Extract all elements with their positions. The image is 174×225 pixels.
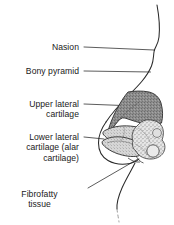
label-bony-pyramid-line-1: Bony pyramid xyxy=(0,66,79,76)
label-lower-lateral-cartilage-line-1: Lower lateral xyxy=(0,132,79,142)
label-nasion-line-1: Nasion xyxy=(0,42,79,52)
leader-line-nasion xyxy=(84,47,154,50)
label-upper-lateral-cartilage-line-2: cartilage xyxy=(0,109,79,119)
label-lower-lateral-cartilage-line-3: cartilage) xyxy=(0,153,79,163)
label-upper-lateral-cartilage: Upper lateral cartilage xyxy=(0,99,79,120)
label-upper-lateral-cartilage-line-1: Upper lateral xyxy=(0,99,79,109)
label-fibrofatty-tissue-line-1: Fibrofatty xyxy=(0,189,79,199)
chin-contour-faint xyxy=(117,209,119,222)
label-fibrofatty-tissue: Fibrofatty tissue xyxy=(0,189,79,210)
fibrofatty-lobule-2 xyxy=(153,129,162,138)
label-nasion: Nasion xyxy=(0,42,79,52)
fibrofatty-lobule-1 xyxy=(147,145,159,157)
label-fibrofatty-tissue-line-2: tissue xyxy=(0,199,79,209)
leader-line-bony-pyramid xyxy=(84,71,151,72)
label-lower-lateral-cartilage-line-2: cartilage (alar xyxy=(0,142,79,152)
leader-line-lower-lateral-cartilage xyxy=(84,137,104,139)
label-bony-pyramid: Bony pyramid xyxy=(0,66,79,76)
fibrofatty-tissue xyxy=(132,120,165,159)
label-lower-lateral-cartilage: Lower lateral cartilage (alar cartilage) xyxy=(0,132,79,163)
forehead-contour xyxy=(154,5,159,51)
anatomy-figure: Nasion Bony pyramid Upper lateral cartil… xyxy=(0,0,174,225)
